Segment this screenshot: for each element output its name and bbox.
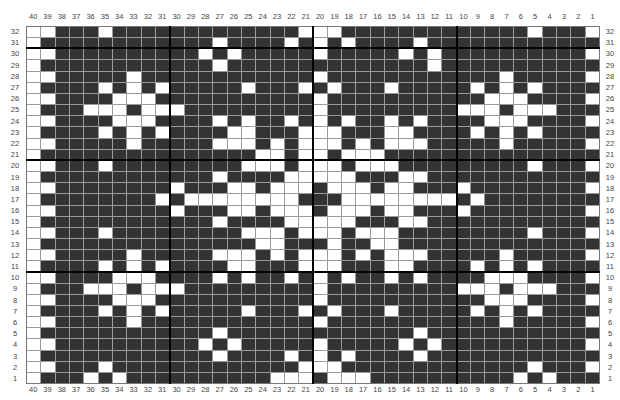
row-label: 24: [600, 116, 620, 127]
stitch-cell: [70, 127, 83, 137]
stitch-cell: [199, 284, 212, 294]
stitch-cell: [242, 206, 255, 216]
stitch-cell: [385, 60, 398, 70]
stitch-cell: [70, 228, 83, 238]
stitch-cell: [371, 172, 384, 182]
stitch-cell: [84, 27, 97, 37]
stitch-cell: [586, 228, 599, 238]
stitch-cell: [514, 328, 527, 338]
stitch-cell: [485, 127, 498, 137]
stitch-cell: [385, 250, 398, 260]
stitch-cell: [356, 351, 369, 361]
stitch-cell: [99, 217, 112, 227]
stitch-cell: [514, 272, 527, 282]
stitch-cell: [485, 284, 498, 294]
column-label: 37: [69, 12, 83, 24]
stitch-cell: [99, 183, 112, 193]
stitch-cell: [228, 105, 241, 115]
stitch-cell: [242, 272, 255, 282]
stitch-cell: [99, 317, 112, 327]
stitch-cell: [156, 351, 169, 361]
stitch-cell: [213, 351, 226, 361]
stitch-cell: [256, 94, 269, 104]
stitch-cell: [557, 105, 570, 115]
stitch-cell: [442, 116, 455, 126]
stitch-cell: [41, 116, 54, 126]
stitch-cell: [485, 206, 498, 216]
stitch-cell: [242, 127, 255, 137]
stitch-cell: [514, 217, 527, 227]
stitch-cell: [457, 239, 470, 249]
stitch-cell: [528, 172, 541, 182]
stitch-cell: [185, 217, 198, 227]
column-label: 37: [69, 385, 83, 397]
row-label: 18: [600, 183, 620, 194]
stitch-cell: [414, 116, 427, 126]
stitch-cell: [313, 351, 326, 361]
stitch-cell: [543, 261, 556, 271]
column-label: 24: [256, 385, 270, 397]
stitch-cell: [485, 49, 498, 59]
stitch-cell: [385, 49, 398, 59]
stitch-cell: [271, 228, 284, 238]
stitch-cell: [142, 261, 155, 271]
column-label: 11: [442, 385, 456, 397]
stitch-cell: [199, 328, 212, 338]
stitch-cell: [142, 94, 155, 104]
row-label: 18: [5, 183, 25, 194]
stitch-cell: [557, 172, 570, 182]
stitch-cell: [113, 284, 126, 294]
row-label: 30: [600, 48, 620, 59]
stitch-cell: [185, 172, 198, 182]
column-label: 34: [112, 12, 126, 24]
stitch-cell: [328, 306, 341, 316]
stitch-cell: [213, 250, 226, 260]
row-label: 28: [600, 71, 620, 82]
stitch-cell: [142, 284, 155, 294]
column-labels-top: 4039383736353433323130292827262524232221…: [26, 12, 600, 24]
stitch-cell: [27, 306, 40, 316]
stitch-cell: [70, 317, 83, 327]
stitch-cell: [41, 317, 54, 327]
stitch-cell: [56, 295, 69, 305]
column-label: 14: [399, 12, 413, 24]
stitch-cell: [514, 284, 527, 294]
stitch-cell: [313, 194, 326, 204]
stitch-cell: [170, 250, 183, 260]
column-label: 8: [485, 12, 499, 24]
stitch-cell: [385, 261, 398, 271]
stitch-cell: [285, 306, 298, 316]
stitch-cell: [70, 339, 83, 349]
stitch-cell: [342, 60, 355, 70]
stitch-cell: [457, 362, 470, 372]
stitch-cell: [99, 83, 112, 93]
stitch-cell: [399, 261, 412, 271]
stitch-cell: [156, 72, 169, 82]
stitch-cell: [356, 272, 369, 282]
stitch-cell: [142, 351, 155, 361]
stitch-cell: [185, 239, 198, 249]
stitch-cell: [271, 351, 284, 361]
stitch-cell: [485, 116, 498, 126]
stitch-cell: [127, 317, 140, 327]
stitch-cell: [285, 83, 298, 93]
stitch-cell: [328, 217, 341, 227]
stitch-cell: [299, 172, 312, 182]
row-label: 6: [5, 317, 25, 328]
column-label: 2: [571, 385, 585, 397]
stitch-cell: [543, 94, 556, 104]
column-label: 6: [514, 12, 528, 24]
column-label: 20: [313, 12, 327, 24]
stitch-cell: [557, 228, 570, 238]
row-label: 4: [600, 339, 620, 350]
stitch-cell: [127, 373, 140, 383]
stitch-cell: [528, 250, 541, 260]
row-labels-left: 3231302928272625242322212019181716151413…: [5, 26, 25, 384]
stitch-cell: [385, 105, 398, 115]
stitch-cell: [342, 172, 355, 182]
stitch-cell: [271, 94, 284, 104]
stitch-cell: [27, 72, 40, 82]
stitch-cell: [313, 295, 326, 305]
stitch-cell: [84, 60, 97, 70]
column-label: 26: [227, 385, 241, 397]
